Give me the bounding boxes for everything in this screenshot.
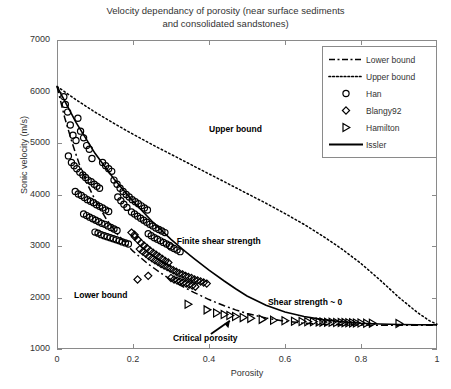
y-axis-label: Sonic velocity (m/s) bbox=[19, 85, 29, 225]
x-axis-label: Porosity bbox=[57, 368, 437, 378]
chart-title-line-2: and consolidated sandstones) bbox=[0, 17, 451, 30]
x-tick-label: 1 bbox=[417, 354, 451, 364]
x-tick-label: 0.2 bbox=[113, 354, 153, 364]
x-tick-label: 0.8 bbox=[341, 354, 381, 364]
legend-item-issler[interactable]: Issler bbox=[326, 136, 433, 153]
legend-label: Issler bbox=[366, 140, 386, 150]
x-tick-label: 0 bbox=[37, 354, 77, 364]
legend-item-han[interactable]: Han bbox=[326, 85, 433, 102]
y-tick-label: 6000 bbox=[2, 86, 50, 96]
legend-item-blangy92[interactable]: Blangy92 bbox=[326, 102, 433, 119]
y-tick-label: 1000 bbox=[2, 343, 50, 353]
legend-item-upper-bound[interactable]: Upper bound bbox=[326, 68, 433, 85]
annotation-critical-porosity: Critical porosity bbox=[173, 333, 238, 343]
x-tick-label: 0.4 bbox=[189, 354, 229, 364]
circle-marker bbox=[326, 85, 366, 102]
annotation-lower-bound: Lower bound bbox=[74, 290, 127, 300]
annotation-shear-strength-0: Shear strength ~ 0 bbox=[268, 297, 342, 307]
legend-label: Han bbox=[366, 89, 382, 99]
chart-figure: Velocity dependancy of porosity (near su… bbox=[0, 0, 451, 389]
chart-title-line-1: Velocity dependancy of porosity (near su… bbox=[0, 4, 451, 17]
legend-item-lower-bound[interactable]: Lower bound bbox=[326, 51, 433, 68]
diamond-marker bbox=[326, 102, 366, 119]
solid-line bbox=[326, 136, 366, 153]
series-han bbox=[61, 94, 183, 255]
annotation-upper-bound: Upper bound bbox=[209, 124, 262, 134]
legend-label: Lower bound bbox=[366, 55, 415, 65]
legend-label: Upper bound bbox=[366, 72, 415, 82]
y-tick-mark bbox=[432, 349, 437, 350]
legend-label: Hamilton bbox=[366, 123, 400, 133]
critical-porosity-arrow bbox=[211, 321, 230, 334]
chart-legend[interactable]: Lower boundUpper boundHanBlangy92Hamilto… bbox=[322, 46, 437, 158]
y-tick-label: 7000 bbox=[2, 34, 50, 44]
triangle-marker bbox=[326, 119, 366, 136]
chart-title: Velocity dependancy of porosity (near su… bbox=[0, 4, 451, 30]
legend-item-hamilton[interactable]: Hamilton bbox=[326, 119, 433, 136]
y-tick-mark bbox=[57, 349, 62, 350]
dotted-line bbox=[326, 68, 366, 85]
dashdot-line bbox=[326, 51, 366, 68]
annotation-finite-shear-strength: Finite shear strength bbox=[177, 236, 261, 246]
legend-label: Blangy92 bbox=[366, 106, 401, 116]
y-tick-label: 4000 bbox=[2, 189, 50, 199]
y-tick-label: 2000 bbox=[2, 292, 50, 302]
y-tick-label: 3000 bbox=[2, 240, 50, 250]
x-tick-label: 0.6 bbox=[265, 354, 305, 364]
y-tick-label: 5000 bbox=[2, 137, 50, 147]
